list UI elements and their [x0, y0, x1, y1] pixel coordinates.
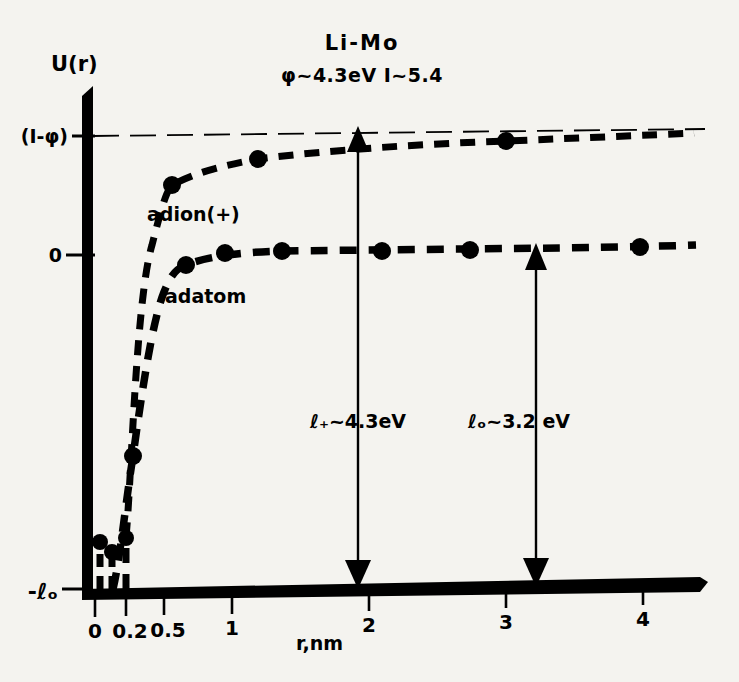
axis-group	[82, 86, 708, 600]
plot-canvas	[0, 0, 739, 682]
x-tick-label-0-5: 0.5	[150, 620, 185, 640]
x-tick-label-1: 1	[225, 618, 239, 638]
x-axis-bar	[82, 577, 708, 600]
adatom-point	[216, 244, 234, 262]
adatom-point	[177, 256, 195, 274]
adion-main-branch	[126, 133, 694, 589]
y-tick-label-neg-l0: -ℓₒ	[2, 581, 58, 603]
adatom-point	[124, 447, 142, 465]
x-tick-label-3: 3	[499, 612, 513, 632]
x-tick-label-4: 4	[636, 609, 650, 629]
x-tick-label-0-2: 0.2	[112, 621, 147, 641]
annotation-arrow-adion	[345, 126, 371, 589]
adion-point	[163, 176, 181, 194]
reference-line-I-minus-phi	[93, 129, 705, 136]
y-tick-label-zero: 0	[18, 246, 62, 265]
adion-point	[249, 150, 267, 168]
annotation-label-adatom: ℓₒ~3.2 eV	[468, 412, 570, 431]
series-adion-curve	[100, 133, 694, 589]
x-axis-label: r,nm	[296, 634, 343, 653]
adion-point	[118, 530, 134, 546]
y-tick-label-I-minus-phi: (I-φ)	[6, 127, 68, 146]
y-axis-bar	[82, 86, 93, 589]
series-label-adion: adion(+)	[147, 205, 240, 224]
annotation-arrowhead-up-adion	[347, 126, 369, 152]
adatom-point	[273, 242, 291, 260]
adion-point	[497, 132, 515, 150]
chart-subtitle: φ~4.3eV I~5.4	[281, 66, 443, 85]
x-tick-label-0: 0	[88, 621, 102, 641]
x-tick-label-2: 2	[362, 615, 376, 635]
series-label-adatom: adatom	[165, 287, 246, 306]
y-axis-label: U(r)	[51, 54, 98, 75]
annotation-label-adion: ℓ₊~4.3eV	[310, 412, 406, 431]
adatom-point	[631, 238, 649, 256]
adatom-point	[373, 242, 391, 260]
chart-title: Li-Mo	[325, 33, 400, 54]
adatom-point	[461, 241, 479, 259]
series-adion-markers	[92, 132, 515, 560]
chart-figure: Li-Mo φ~4.3eV I~5.4 U(r) r,nm (I-φ) 0 -ℓ…	[0, 0, 739, 682]
